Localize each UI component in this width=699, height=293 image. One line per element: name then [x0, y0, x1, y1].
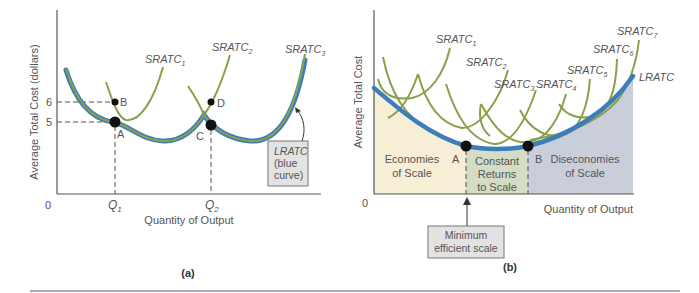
x-axis-label-b: Quantity of Output [544, 203, 633, 215]
sratc2-label-a: SRATC2 [212, 41, 252, 55]
sratc1-curve-b [378, 48, 450, 98]
sratc3-label-b: SRATC3 [494, 78, 534, 92]
sratc7-label-b: SRATC7 [617, 25, 658, 39]
point-d-a [208, 99, 215, 106]
y-tick-6: 6 [46, 96, 52, 108]
callout-line3-a: curve) [274, 169, 303, 181]
caption-b: (b) [503, 261, 517, 273]
callout-line1-a: LRATC [274, 145, 308, 157]
sratc2b-curve-a [188, 86, 204, 115]
point-b-a [112, 99, 119, 106]
label-d-a: D [217, 97, 225, 109]
panel-b: A B Economies of Scale Constant Returns … [352, 10, 674, 273]
point-a-b [461, 141, 472, 152]
x-tick-q2: Q2 [205, 198, 219, 214]
sratc2-label-b: SRATC2 [466, 56, 506, 70]
economies-label-1: Economies [385, 153, 440, 165]
diseconomies-label-1: Diseconomies [550, 153, 620, 165]
point-b-b [523, 141, 534, 152]
callout-line2-a: (blue [274, 157, 298, 169]
constant-label-1: Constant [475, 155, 519, 167]
economies-label-2: of Scale [392, 167, 432, 179]
sratc1b-curve-a [106, 67, 163, 120]
diseconomies-label-2: of Scale [565, 167, 605, 179]
sratc1-label-b: SRATC1 [436, 33, 476, 47]
sratc6-label-b: SRATC6 [593, 43, 633, 57]
x-tick-q1: Q1 [108, 198, 122, 214]
lratc-curve-a [66, 60, 305, 141]
constant-label-3: to Scale [477, 181, 517, 193]
callout-arrow-a [297, 110, 304, 141]
y-axis-label-a: Average Total Cost (dollars) [28, 44, 40, 179]
label-a-a: A [117, 128, 125, 140]
sratc3-label-a: SRATC3 [285, 43, 325, 57]
point-c-a [206, 120, 217, 131]
label-a-b: A [452, 153, 460, 165]
point-a-a [110, 117, 121, 128]
y-tick-5: 5 [46, 116, 52, 128]
sratc4-label-b: SRATC4 [536, 78, 576, 92]
arrow-up-icon [463, 197, 471, 205]
mes-line-2: efficient scale [434, 242, 498, 254]
constant-label-2: Returns [478, 168, 517, 180]
label-c-a: C [196, 130, 204, 142]
label-b-b: B [535, 153, 542, 165]
y-axis-label-b: Average Total Cost [352, 56, 364, 149]
mes-line-1: Minimum [445, 229, 488, 241]
origin-b: 0 [362, 197, 368, 209]
figure: B A C D 6 5 0 Q1 Q2 Quantity of Output A… [0, 0, 699, 293]
arrowhead-icon-a [295, 107, 301, 113]
x-axis-label-a: Quantity of Output [144, 214, 233, 226]
caption-a: (a) [181, 267, 195, 279]
panel-a: B A C D 6 5 0 Q1 Q2 Quantity of Output A… [28, 10, 325, 279]
sratc5-label-b: SRATC5 [567, 64, 607, 78]
label-b-a: B [120, 96, 127, 108]
dashed-guides-a [57, 102, 211, 194]
sratc1-label-a: SRATC1 [145, 53, 185, 67]
lratc-label-b: LRATC [639, 71, 674, 83]
sratc4-left-b [480, 104, 490, 136]
origin-a: 0 [45, 199, 51, 211]
